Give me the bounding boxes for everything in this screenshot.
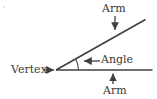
label-arm-top: Arm: [102, 3, 126, 14]
label-vertex: Vertex: [11, 64, 47, 75]
angle-diagram-canvas: [0, 0, 157, 99]
angle-arc: [76, 59, 79, 70]
angle-diagram-figure: Arm Arm Angle Vertex: [0, 0, 157, 99]
label-angle: Angle: [101, 54, 133, 65]
label-arm-bottom: Arm: [103, 85, 127, 96]
